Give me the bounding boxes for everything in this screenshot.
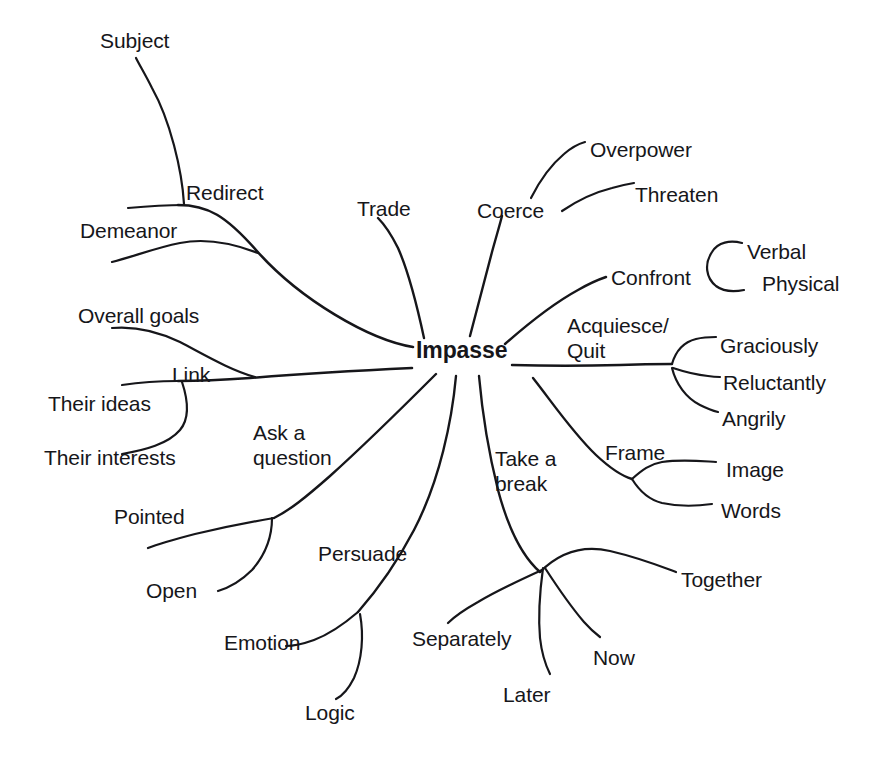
node-label-ask-a-question: Ask a question	[253, 420, 332, 470]
branch-link-stub	[122, 381, 178, 385]
branch-threaten	[562, 183, 634, 211]
branch-persuade	[358, 376, 456, 612]
branch-trade	[378, 218, 424, 338]
branch-open	[218, 518, 272, 591]
branch-words	[632, 479, 712, 506]
node-label-demeanor: Demeanor	[80, 218, 177, 243]
branch-acquiesce-quit	[512, 364, 672, 366]
node-label-open: Open	[146, 578, 197, 603]
branch-coerce	[470, 216, 502, 336]
branch-demeanor	[112, 241, 258, 262]
node-label-reluctantly: Reluctantly	[723, 370, 826, 395]
branch-redirect	[178, 205, 413, 347]
node-label-take-a-break: Take a break	[495, 446, 556, 496]
node-label-overpower: Overpower	[590, 137, 692, 162]
node-label-acquiesce-quit: Acquiesce/ Quit	[567, 313, 669, 363]
node-label-emotion: Emotion	[224, 630, 300, 655]
node-label-separately: Separately	[412, 626, 511, 651]
node-label-subject: Subject	[100, 28, 169, 53]
branch-overpower	[531, 142, 585, 198]
node-label-words: Words	[721, 498, 781, 523]
node-label-threaten: Threaten	[635, 182, 718, 207]
node-label-root: Impasse	[416, 338, 507, 363]
branch-separately	[448, 570, 542, 623]
mindmap-canvas: Impasse Redirect Subject Demeanor Link O…	[0, 0, 889, 770]
node-label-verbal: Verbal	[747, 239, 806, 264]
branch-verbal	[707, 242, 744, 291]
node-label-together: Together	[681, 567, 762, 592]
node-label-redirect: Redirect	[186, 180, 263, 205]
node-label-confront: Confront	[611, 265, 691, 290]
branch-later	[539, 568, 550, 674]
node-label-their-ideas: Their ideas	[48, 391, 151, 416]
node-label-now: Now	[593, 645, 635, 670]
branch-redirect-stub	[128, 205, 184, 208]
node-label-link: Link	[172, 362, 210, 387]
node-label-image: Image	[726, 457, 784, 482]
node-label-graciously: Graciously	[720, 333, 818, 358]
node-label-coerce: Coerce	[477, 198, 544, 223]
node-label-persuade: Persuade	[318, 541, 407, 566]
node-label-pointed: Pointed	[114, 504, 185, 529]
node-label-angrily: Angrily	[722, 406, 786, 431]
branch-now	[545, 568, 600, 637]
node-label-later: Later	[503, 682, 550, 707]
node-label-overall-goals: Overall goals	[78, 303, 199, 328]
node-label-trade: Trade	[357, 196, 411, 221]
node-label-logic: Logic	[305, 700, 355, 725]
node-label-physical: Physical	[762, 271, 839, 296]
node-label-their-interests: Their interests	[44, 445, 176, 470]
branch-graciously	[672, 337, 716, 364]
branch-subject	[136, 58, 184, 204]
node-label-frame: Frame	[605, 440, 665, 465]
branch-reluctantly	[673, 368, 720, 377]
branch-together	[540, 549, 676, 572]
branch-link	[178, 368, 412, 381]
